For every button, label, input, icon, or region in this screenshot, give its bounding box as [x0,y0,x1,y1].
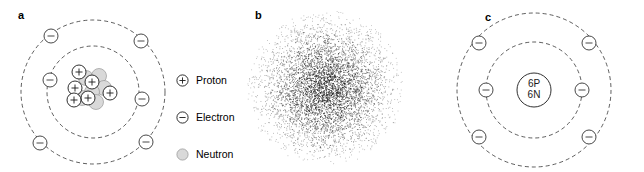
atomic-models-figure: a [0,0,644,172]
proton-particle [72,65,86,79]
panel-c-shell-model: c 6P 6N [430,0,644,172]
outer-shell-electron [472,130,486,144]
nucleus-proton-label: 6P [528,78,541,89]
proton-particle [103,86,117,100]
nucleus-cluster [67,65,117,110]
proton-particle [81,91,95,105]
outer-shell-electron [472,36,486,50]
plus-circle-icon [176,74,189,87]
proton-particle [85,75,99,89]
proton-particle [67,93,81,107]
outer-shell-electron [44,29,58,43]
outer-shell-electron [582,36,596,50]
minus-circle-icon [176,111,189,124]
electron-cloud-stipple [248,11,403,164]
panel-a-bohr-model: a [0,0,215,172]
outer-shell-electron [582,130,596,144]
inner-shell-electron [479,83,493,97]
panel-c-svg: 6P 6N [430,0,644,172]
outer-shell-electron [139,135,153,149]
shaded-circle-icon [176,148,189,161]
inner-shell-electron [43,73,57,87]
inner-shell-electron [135,92,149,106]
inner-shell-electron [575,83,589,97]
panel-b-electron-cloud: b [215,0,430,172]
outer-shell-electron [33,136,47,150]
electron-cloud-svg [215,0,430,172]
outer-shell-electron [134,34,148,48]
nucleus-neutron-label: 6N [528,89,541,100]
nucleus: 6P 6N [517,73,551,107]
